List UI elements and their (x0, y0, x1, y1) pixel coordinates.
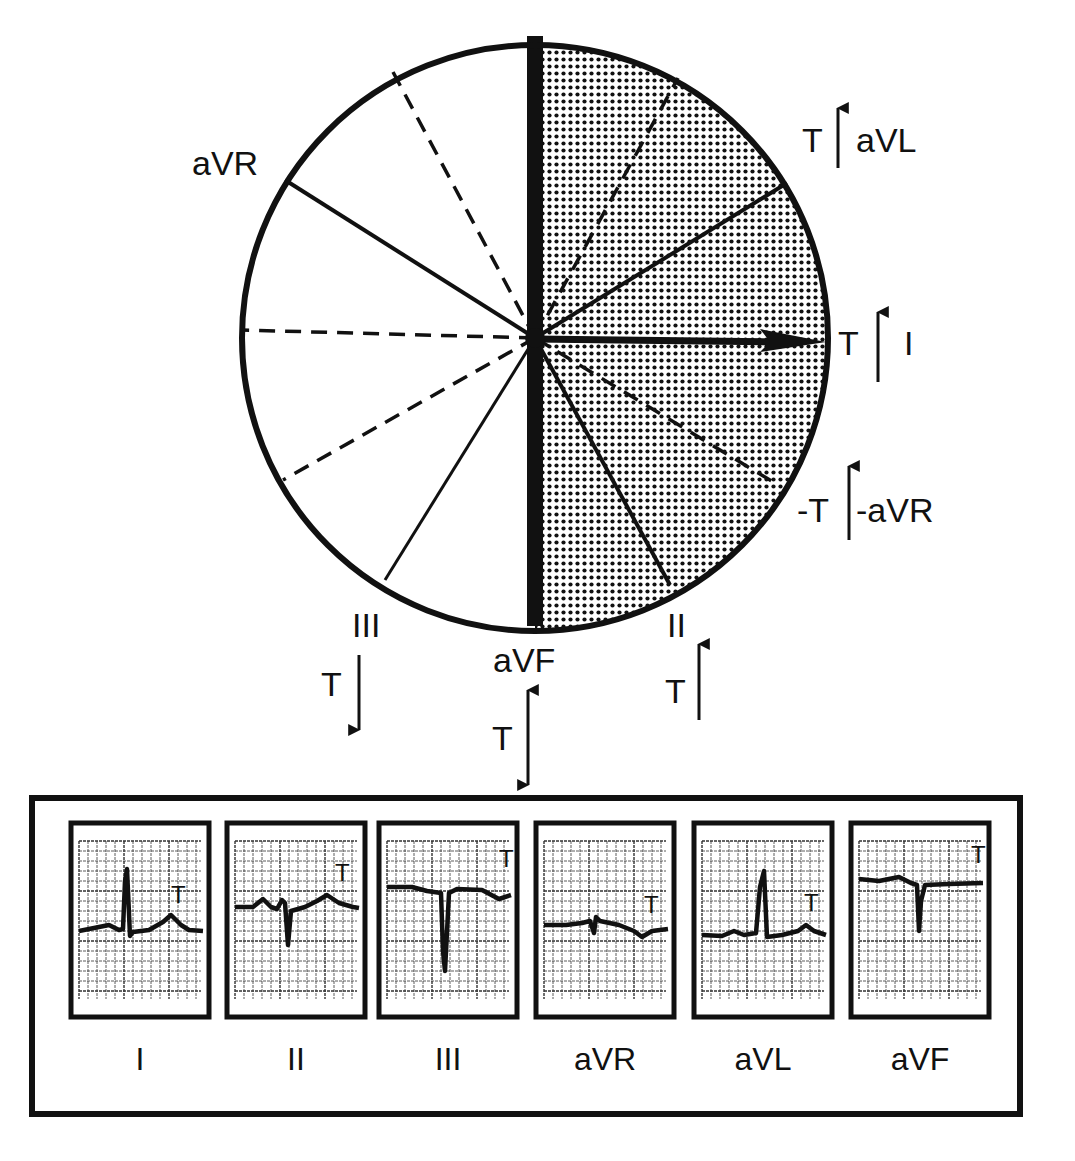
indicator-neg-avr: -T -aVR (797, 466, 933, 540)
center-hub (525, 328, 545, 348)
lead-line-dash-upper-left (393, 72, 535, 338)
neg-t-label: -T (797, 491, 829, 529)
lead-line-iii (385, 338, 535, 580)
t-label: T (665, 672, 686, 710)
indicator-avl: T aVL (802, 108, 917, 168)
ecg-strip-avf: TaVF (851, 823, 989, 1077)
label-avr: aVR (192, 144, 258, 182)
t-wave-marker: T (971, 841, 986, 868)
label-neg-avr: -aVR (856, 491, 933, 529)
ecg-strips: TITIITIIITaVRTaVLTaVF (71, 823, 989, 1077)
strip-label: I (136, 1041, 145, 1077)
indicator-avf: aVF T (492, 641, 555, 785)
indicator-ii: II T (665, 606, 699, 720)
strip-label: aVF (891, 1041, 950, 1077)
ecg-strip-ii: TII (227, 823, 365, 1077)
t-wave-marker: T (804, 889, 819, 916)
label-ii: II (667, 606, 686, 644)
t-label: T (321, 665, 342, 703)
indicator-i: T I (838, 312, 913, 382)
t-wave-marker: T (644, 891, 659, 918)
strip-frame (227, 823, 365, 1017)
ecg-strip-iii: TIII (379, 823, 517, 1077)
lead-line-avr (285, 180, 535, 338)
indicator-iii: III T (321, 606, 380, 730)
t-label: T (802, 121, 823, 159)
t-wave-marker: T (335, 859, 350, 886)
lead-line-dash-left (242, 330, 535, 338)
strip-label: aVR (574, 1041, 636, 1077)
label-avl: aVL (856, 121, 917, 159)
t-wave-marker: T (499, 845, 514, 872)
strip-label: III (435, 1041, 462, 1077)
label-i: I (904, 324, 913, 362)
ecg-strip-avl: TaVL (694, 823, 832, 1077)
label-avf: aVF (493, 641, 555, 679)
ecg-strip-avr: TaVR (536, 823, 674, 1077)
strip-label: II (287, 1041, 305, 1077)
strip-frame (694, 823, 832, 1017)
lead-line-dash-lower-left (283, 338, 535, 480)
t-wave-marker: T (171, 881, 186, 908)
t-label: T (492, 719, 513, 757)
hexaxial-diagram: aVR T aVL T I -T -aVR III T aVF T II T T… (0, 0, 1075, 1161)
strip-frame (71, 823, 209, 1017)
label-iii: III (352, 606, 380, 644)
strip-label: aVL (735, 1041, 792, 1077)
ecg-strip-i: TI (71, 823, 209, 1077)
t-label: T (838, 324, 859, 362)
